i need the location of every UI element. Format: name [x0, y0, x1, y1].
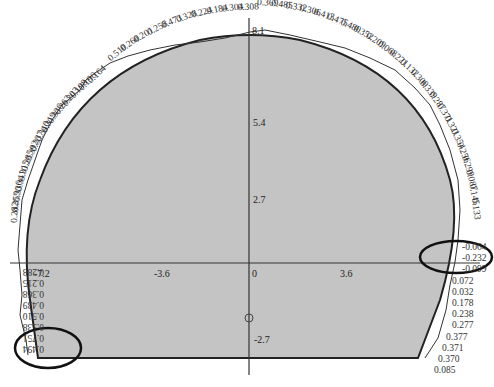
- y-tick-27: 2.7: [253, 194, 266, 205]
- deformation-label: 0.178: [452, 298, 474, 308]
- deformation-label: -0.099: [462, 264, 487, 274]
- deformation-label: 0.282: [9, 201, 20, 223]
- y-tick-neg27: -2.7: [254, 334, 270, 345]
- deformation-label: 0.215: [22, 278, 44, 288]
- deformation-label: 0.072: [452, 276, 474, 286]
- x-tick-36: 3.6: [340, 268, 353, 279]
- deformation-label: 0.439: [22, 300, 44, 310]
- deformation-label: 0.494: [22, 344, 44, 354]
- deformation-label: 0.085: [434, 365, 456, 375]
- deformation-label: 0.538: [22, 322, 44, 332]
- diagram-canvas: -7.2 -3.6 0 3.6 8.1 5.4 2.7 -2.7 0.5100.…: [0, 0, 494, 387]
- deformation-label: 0.288: [22, 267, 44, 277]
- deformation-label: -0.064: [462, 242, 487, 252]
- y-tick-54: 5.4: [253, 117, 266, 128]
- deformation-label: 0.032: [452, 287, 474, 297]
- deformation-label: 0.371: [442, 343, 464, 353]
- x-tick-0: 0: [252, 268, 257, 279]
- deformation-label: 0.751: [22, 333, 44, 343]
- y-tick-81: 8.1: [252, 25, 265, 36]
- x-tick-neg36: -3.6: [154, 268, 170, 279]
- deformation-label: 0.510: [22, 311, 44, 321]
- deformation-label: 0.277: [452, 320, 474, 330]
- deformation-label: -0.232: [462, 253, 487, 263]
- deformation-label: 0.133: [470, 198, 483, 221]
- deformation-label: 0.370: [438, 354, 460, 364]
- deformation-label: 0.368: [22, 289, 44, 299]
- tunnel-deformation-diagram: -7.2 -3.6 0 3.6 8.1 5.4 2.7 -2.7 0.5100.…: [0, 0, 494, 387]
- deformation-label: 0.238: [452, 309, 474, 319]
- deformation-label: 0.377: [446, 332, 468, 342]
